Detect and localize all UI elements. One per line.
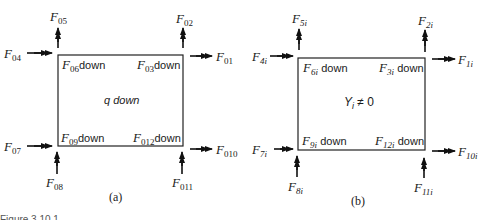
flow-label-a-top-left-up: F05 (50, 10, 67, 23)
flow-label-a-bottom-left-in: F07 (4, 140, 21, 153)
inner-label-b-bottom-right: F12i down (375, 134, 424, 147)
inner-label-a-top-right: F03down (137, 58, 180, 71)
inner-label-b-top-left: F6i down (303, 61, 348, 74)
figure-caption-fragment: Figure 3.10.1 (0, 214, 59, 220)
inner-label-a-bottom-right: F012down (133, 131, 181, 144)
flow-label-a-bottom-left-up: F08 (46, 176, 63, 189)
inner-label-b-bottom-left: F9i down (302, 134, 347, 147)
flow-label-b-top-left-up: F5i (292, 12, 307, 25)
flow-label-a-top-right-out: F01 (216, 50, 233, 63)
panel-caption-a: (a) (109, 190, 122, 205)
flow-label-b-bottom-left-in: F7i (252, 143, 267, 156)
flow-label-b-bottom-left-up: F8i (288, 180, 303, 193)
flow-label-a-bottom-right-up: F011 (172, 176, 193, 189)
flow-label-b-top-right-up: F2i (418, 14, 433, 27)
flow-label-a-bottom-right-out: F010 (216, 143, 237, 156)
inner-label-a-top-left: F06down (62, 58, 105, 71)
panel-caption-b: (b) (351, 194, 365, 209)
flow-label-a-top-right-up: F02 (176, 12, 193, 25)
flow-label-b-top-left-in: F4i (252, 50, 267, 63)
center-label-a: q down (104, 94, 139, 106)
inner-label-b-top-right: F3i down (379, 61, 424, 74)
center-label-b: Yi ≠ 0 (344, 95, 374, 109)
flow-label-b-bottom-right-out: F10i (458, 145, 477, 158)
flow-label-b-bottom-right-up: F11i (414, 181, 433, 194)
flow-label-a-top-left-in: F04 (4, 47, 21, 60)
inner-label-a-bottom-left: F09down (61, 131, 104, 144)
flow-label-b-top-right-out: F1i (458, 53, 473, 66)
